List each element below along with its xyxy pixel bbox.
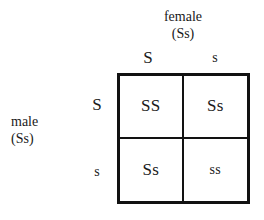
male-parent-genotype: (Ss) [11, 130, 81, 147]
row-allele-header-0: S [84, 94, 110, 116]
punnett-cell-genotype: ss [210, 162, 221, 178]
punnett-cell-r0c1: Ss [184, 76, 248, 139]
male-parent-sex: male [11, 113, 81, 130]
punnett-square-diagram: female (Ss) male (Ss) S s S s SS Ss Ss s… [0, 0, 264, 220]
punnett-cell-r1c0: Ss [120, 139, 184, 202]
punnett-cell-genotype: Ss [207, 96, 223, 116]
punnett-cell-genotype: Ss [143, 160, 159, 180]
punnett-cell-genotype: SS [141, 96, 160, 116]
female-parent-label: female (Ss) [133, 8, 233, 42]
column-allele-header-0: S [133, 47, 163, 69]
row-allele-header-1: s [84, 161, 110, 183]
column-allele-header-1: s [200, 47, 230, 69]
female-parent-genotype: (Ss) [133, 25, 233, 42]
punnett-cell-r0c0: SS [120, 76, 184, 139]
female-parent-sex: female [133, 8, 233, 25]
punnett-grid: SS Ss Ss ss [117, 73, 250, 204]
male-parent-label: male (Ss) [11, 113, 81, 147]
punnett-cell-r1c1: ss [184, 139, 248, 202]
